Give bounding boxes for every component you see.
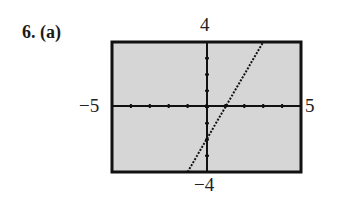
graph-plot [0, 0, 339, 197]
